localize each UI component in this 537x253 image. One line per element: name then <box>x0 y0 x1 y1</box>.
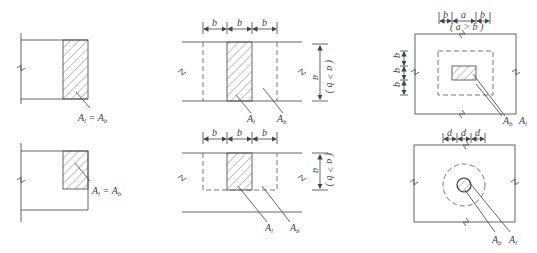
dim-a: a <box>311 75 322 80</box>
dim-b: b <box>443 9 448 20</box>
label-al: Al <box>246 113 255 126</box>
condition-a-gt-b: ( a > b ) <box>324 60 336 94</box>
panel-middle-bottom: b b b a ( a > b ) Al Ab <box>178 127 336 235</box>
dim-b: b <box>262 127 267 138</box>
label-al-eq-ab: Al = Ab <box>77 112 108 125</box>
panel-middle-top: b b b a ( a > b ) Al Ab <box>178 17 336 126</box>
dim-b: b <box>212 17 217 28</box>
condition-a-gt-b: ( a > b ) <box>450 21 484 33</box>
label-al: Al <box>518 115 527 128</box>
dim-b: b <box>237 17 242 28</box>
bearing-area-hatch <box>457 178 471 192</box>
panel-corner: Al = Ab <box>17 143 122 222</box>
bearing-area-hatch <box>227 42 252 101</box>
local-compression-area-diagram: Al = Ab Al = Ab b b b <box>0 0 537 253</box>
dim-b: b <box>391 53 402 58</box>
bearing-area-hatch <box>227 153 252 190</box>
dim-b: b <box>212 127 217 138</box>
dim-b: b <box>480 9 485 20</box>
label-ab: Ab <box>502 115 513 128</box>
dim-b: b <box>391 68 402 73</box>
bearing-area-hatch <box>63 151 88 189</box>
panel-right-bottom: d d d Ab Al <box>410 127 519 247</box>
panel-edge-top: Al = Ab <box>17 33 108 125</box>
label-al-eq-ab: Al = Ab <box>91 185 122 198</box>
bearing-area-hatch <box>452 66 476 80</box>
dim-d: d <box>447 127 453 138</box>
panel-right-top: b a b ( a > b ) b b b Ab Al <box>391 9 527 128</box>
label-ab: Ab <box>491 234 502 247</box>
label-al: Al <box>264 222 273 235</box>
condition-a-gt-b: ( a > b ) <box>324 153 336 187</box>
label-ab: Ab <box>289 222 300 235</box>
dim-d: d <box>461 127 467 138</box>
label-al: Al <box>508 234 517 247</box>
dim-b: b <box>391 82 402 87</box>
label-ab: Ab <box>276 113 287 126</box>
dim-a: a <box>311 168 322 173</box>
dim-b: b <box>262 17 267 28</box>
dim-a: a <box>461 9 466 20</box>
dim-b: b <box>237 127 242 138</box>
dim-d: d <box>475 127 481 138</box>
bearing-area-hatch <box>63 40 88 99</box>
